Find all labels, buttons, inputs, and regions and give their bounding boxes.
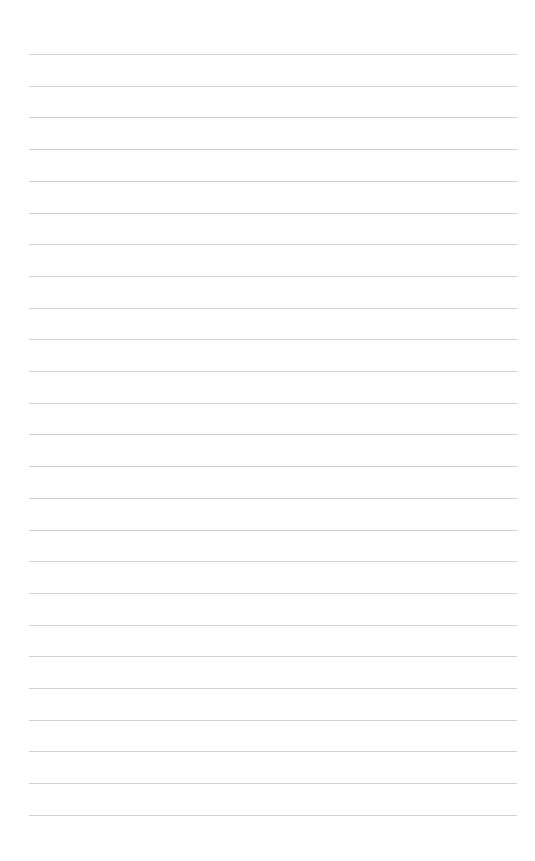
ruled-line <box>29 656 517 657</box>
ruled-line <box>29 181 517 182</box>
ruled-line <box>29 561 517 562</box>
ruled-line <box>29 751 517 752</box>
ruled-line <box>29 625 517 626</box>
ruled-line <box>29 213 517 214</box>
ruled-line <box>29 498 517 499</box>
ruled-line <box>29 117 517 118</box>
ruled-line <box>29 308 517 309</box>
ruled-line <box>29 434 517 435</box>
ruled-line <box>29 466 517 467</box>
ruled-line <box>29 783 517 784</box>
ruled-line <box>29 815 517 816</box>
ruled-line <box>29 339 517 340</box>
ruled-line <box>29 688 517 689</box>
ruled-line <box>29 720 517 721</box>
ruled-line <box>29 86 517 87</box>
ruled-line <box>29 403 517 404</box>
ruled-line <box>29 276 517 277</box>
ruled-line <box>29 149 517 150</box>
ruled-line <box>29 371 517 372</box>
ruled-line <box>29 244 517 245</box>
ruled-line <box>29 54 517 55</box>
lined-paper-page <box>0 0 535 861</box>
ruled-line <box>29 593 517 594</box>
ruled-line <box>29 530 517 531</box>
